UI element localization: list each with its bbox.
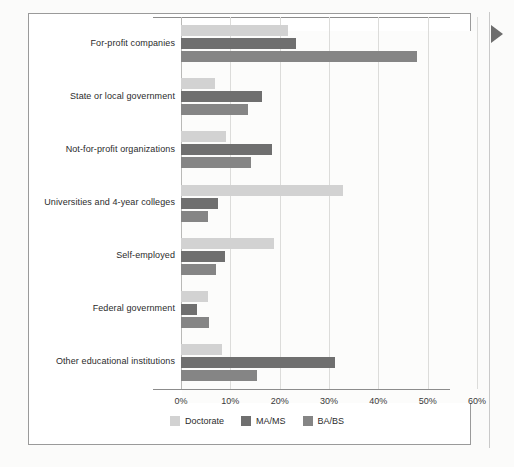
x-tick-20: 20% <box>271 396 289 406</box>
bar-doctorate-1 <box>181 78 215 89</box>
bar-ma-ms-4 <box>181 251 225 262</box>
x-tick-60: 60% <box>468 396 486 406</box>
category-label-5: Federal government <box>93 303 175 313</box>
category-label-1: State or local government <box>70 91 175 101</box>
legend-swatch-icon <box>303 416 313 426</box>
page-canvas: For-profit companiesState or local gover… <box>0 0 514 467</box>
category-label-0: For-profit companies <box>90 38 175 48</box>
bar-ma-ms-2 <box>181 144 272 155</box>
bar-ba-bs-4 <box>181 264 216 275</box>
bar-ba-bs-2 <box>181 157 251 168</box>
bar-ba-bs-5 <box>181 317 209 328</box>
category-label-6: Other educational institutions <box>56 356 175 366</box>
gridline-20 <box>280 17 281 389</box>
bar-doctorate-0 <box>181 25 288 36</box>
x-tick-0: 0% <box>174 396 187 406</box>
legend-label: MA/MS <box>256 416 286 426</box>
bar-ma-ms-0 <box>181 38 296 49</box>
legend-label: BA/BS <box>318 416 345 426</box>
gridline-40 <box>378 17 379 389</box>
bar-ma-ms-6 <box>181 357 335 368</box>
gridline-50 <box>428 17 429 389</box>
play-arrow-right-icon[interactable] <box>491 25 503 43</box>
page-edge-rule <box>489 12 490 448</box>
legend-label: Doctorate <box>185 416 224 426</box>
bar-doctorate-6 <box>181 344 222 355</box>
plot-area <box>182 31 478 403</box>
category-label-3: Universities and 4-year colleges <box>44 197 175 207</box>
legend-item-doctorate[interactable]: Doctorate <box>170 416 224 426</box>
plot-baseline <box>153 389 450 390</box>
bar-ma-ms-3 <box>181 198 218 209</box>
legend-swatch-icon <box>170 416 180 426</box>
x-tick-50: 50% <box>419 396 437 406</box>
bar-doctorate-5 <box>181 291 208 302</box>
bar-doctorate-3 <box>181 185 343 196</box>
gridline-30 <box>329 17 330 389</box>
x-tick-30: 30% <box>320 396 338 406</box>
gridline-10 <box>230 17 231 389</box>
category-label-4: Self-employed <box>116 250 175 260</box>
bar-ma-ms-5 <box>181 304 197 315</box>
x-tick-40: 40% <box>369 396 387 406</box>
chart-legend: DoctorateMA/MSBA/BS <box>0 416 514 426</box>
bar-doctorate-4 <box>181 238 274 249</box>
x-tick-10: 10% <box>221 396 239 406</box>
bar-ba-bs-1 <box>181 104 248 115</box>
bar-doctorate-2 <box>181 131 226 142</box>
bar-ba-bs-6 <box>181 370 257 381</box>
bar-ba-bs-3 <box>181 211 208 222</box>
legend-item-ma-ms[interactable]: MA/MS <box>241 416 286 426</box>
bar-ma-ms-1 <box>181 91 262 102</box>
plot-top-rule <box>153 17 450 18</box>
legend-swatch-icon <box>241 416 251 426</box>
category-label-2: Not-for-profit organizations <box>66 144 175 154</box>
legend-item-ba-bs[interactable]: BA/BS <box>303 416 345 426</box>
bar-ba-bs-0 <box>181 51 417 62</box>
gridline-60 <box>477 17 478 389</box>
